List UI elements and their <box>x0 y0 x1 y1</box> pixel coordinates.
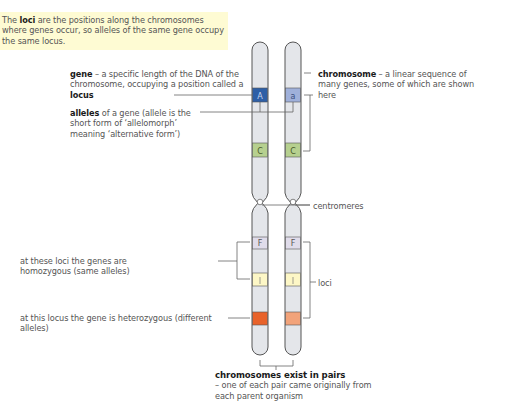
band-heterozygous-right <box>286 312 301 325</box>
chromosome-pair-diagram: A C F a C F <box>0 0 506 410</box>
chromosome-right: a C F <box>285 42 301 355</box>
centromere-left <box>257 199 263 205</box>
alleles-label: alleles of a gene (allele is the short f… <box>70 108 205 139</box>
centromere-right <box>290 199 296 205</box>
chromosome-label: chromosome – a linear sequence of many g… <box>318 69 488 100</box>
loci-label: loci <box>318 278 332 288</box>
centromeres-label: centromeres <box>313 201 364 211</box>
svg-text:C: C <box>257 147 263 156</box>
svg-text:A: A <box>257 92 263 101</box>
svg-text:F: F <box>258 239 263 248</box>
band-heterozygous-left <box>253 312 268 325</box>
chromosome-left: A C F <box>252 42 268 355</box>
svg-text:C: C <box>290 147 296 156</box>
heterozygous-label: at this locus the gene is heterozygous (… <box>20 313 235 334</box>
svg-text:F: F <box>291 239 296 248</box>
svg-text:a: a <box>291 92 296 101</box>
homozygous-label: at these loci the genes are homozygous (… <box>20 256 160 277</box>
gene-label: gene – a specific length of the DNA of t… <box>70 69 245 100</box>
pairs-label: chromosomes exist in pairs– one of each … <box>215 370 385 401</box>
